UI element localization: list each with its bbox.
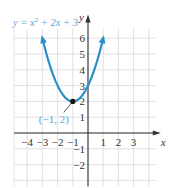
- arrow-left-icon: [40, 35, 47, 44]
- x-tick-label: 3: [131, 136, 137, 148]
- x-axis-label: x: [160, 136, 166, 148]
- y-tick-label: 1: [80, 111, 86, 123]
- y-tick-label: 6: [80, 32, 86, 44]
- x-axis-arrow-icon: [153, 130, 161, 135]
- y-tick-label: 4: [80, 64, 86, 76]
- y-tick-label: −1: [73, 143, 85, 155]
- y-axis-arrow-icon: [85, 14, 90, 22]
- vertex-label: (−1, 2): [39, 113, 69, 126]
- x-tick-label: −2: [52, 136, 64, 148]
- vertex-point: [70, 99, 75, 104]
- equation-label: y = x2 + 2x + 3: [12, 16, 78, 28]
- x-tick-label: 2: [116, 136, 122, 148]
- x-tick-label: 1: [100, 136, 106, 148]
- y-tick-label: −2: [73, 159, 85, 171]
- parabola-chart: −4−3−2−1123−2−1123456 (−1, 2) y = x2 + 2…: [0, 0, 176, 188]
- arrow-right-icon: [99, 35, 106, 44]
- y-tick-label: 5: [80, 48, 86, 60]
- y-axis-label: y: [78, 11, 84, 23]
- axes: [14, 14, 161, 186]
- x-tick-label: −3: [37, 136, 49, 148]
- x-tick-label: −4: [21, 136, 33, 148]
